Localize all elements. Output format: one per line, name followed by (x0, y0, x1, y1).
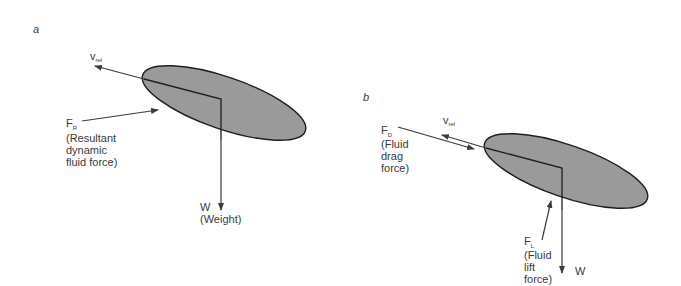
fr-desc-line2: dynamic (66, 144, 107, 156)
weight-label-b: W (575, 265, 586, 277)
panel-label-b: b (363, 91, 369, 103)
fd-desc-line1: (Fluid (381, 138, 409, 150)
fl-desc-line2: lift (524, 261, 535, 273)
panel-label-a: a (33, 23, 39, 35)
fr-label-a: FR (66, 117, 78, 131)
fd-desc-line3: force) (381, 162, 409, 174)
fl-label-b: FL (524, 235, 535, 249)
fd-label-b: FD (381, 124, 393, 138)
fl-desc-line1: (Fluid (524, 249, 552, 261)
vrel-label-a: vrel (90, 50, 102, 63)
vrel-arrow-a (95, 66, 144, 79)
fl-arrow-b (542, 201, 551, 240)
fd-desc-line2: drag (381, 150, 403, 162)
body-ellipse-b (476, 118, 656, 223)
fd-arrow-b (398, 127, 474, 149)
weight-desc-a: (Weight) (200, 213, 241, 225)
fr-desc-line1: (Resultant (66, 132, 116, 144)
fr-arrow-a (82, 110, 158, 121)
fl-desc-line3: force) (524, 273, 552, 285)
weight-label-a: W (200, 201, 211, 213)
panel-a: a vrel FR (Resultant dynamic fluid force… (33, 23, 314, 225)
vrel-label-b: vrel (443, 114, 455, 127)
panel-b: b vrel FD (Fluid drag force) FL (Fluid l… (363, 91, 656, 285)
body-ellipse-a (134, 50, 314, 155)
fr-desc-line3: fluid force) (66, 156, 117, 168)
diagram-canvas: a vrel FR (Resultant dynamic fluid force… (0, 0, 681, 286)
